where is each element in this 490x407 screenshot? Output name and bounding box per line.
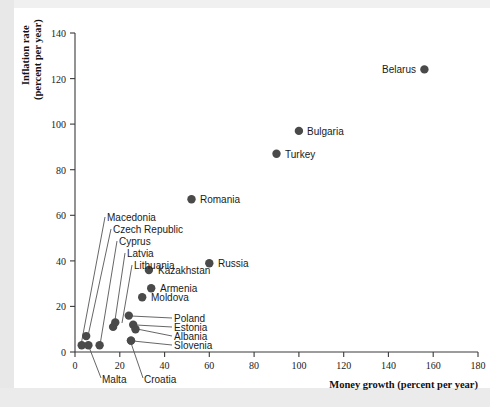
label-lithuania: Lithuania bbox=[134, 260, 175, 271]
label-turkey: Turkey bbox=[285, 149, 315, 160]
x-tick-label-180: 180 bbox=[471, 360, 486, 371]
label-romania: Romania bbox=[200, 194, 240, 205]
y-tick-label-20: 20 bbox=[56, 301, 66, 312]
point-lithuania[interactable] bbox=[111, 318, 119, 326]
label-croatia: Croatia bbox=[144, 374, 177, 385]
label-slovenia: Slovenia bbox=[174, 340, 213, 351]
label-macedonia: Macedonia bbox=[107, 212, 156, 223]
scatter-chart: 0 20 40 60 80 100 120 140 0 20 40 60 80 bbox=[0, 0, 490, 407]
y-tick-label-0: 0 bbox=[61, 347, 66, 358]
point-czech-republic[interactable] bbox=[82, 332, 90, 340]
x-tick-label-40: 40 bbox=[160, 360, 170, 371]
x-axis-title: Money growth (percent per year) bbox=[329, 379, 478, 391]
y-tick-label-140: 140 bbox=[51, 28, 66, 39]
leader-line-estonia bbox=[136, 325, 172, 327]
label-malta: Malta bbox=[102, 374, 127, 385]
y-tick-label-100: 100 bbox=[51, 119, 66, 130]
label-czech-republic: Czech Republic bbox=[113, 224, 183, 235]
label-belarus: Belarus bbox=[382, 64, 416, 75]
leader-line-macedonia bbox=[81, 217, 105, 345]
point-labels: Belarus Bulgaria Turkey Romania Russia K… bbox=[102, 64, 416, 385]
leader-line-albania bbox=[137, 329, 172, 336]
y-axis-title-line2: (percent per year) bbox=[32, 19, 44, 100]
x-tick-label-80: 80 bbox=[249, 360, 259, 371]
label-russia: Russia bbox=[218, 258, 249, 269]
data-points bbox=[78, 65, 429, 349]
x-tick-label-20: 20 bbox=[115, 360, 125, 371]
label-moldova: Moldova bbox=[151, 292, 189, 303]
leader-line-slovenia bbox=[133, 341, 172, 345]
y-tick-label-40: 40 bbox=[56, 256, 66, 267]
x-tick-label-60: 60 bbox=[204, 360, 214, 371]
x-tick-label-0: 0 bbox=[73, 360, 78, 371]
point-poland[interactable] bbox=[125, 311, 133, 319]
point-romania[interactable] bbox=[187, 195, 195, 203]
point-bulgaria[interactable] bbox=[295, 127, 303, 135]
label-cyprus: Cyprus bbox=[119, 236, 151, 247]
label-latvia: Latvia bbox=[127, 248, 154, 259]
point-cyprus[interactable] bbox=[95, 341, 103, 349]
x-tick-label-160: 160 bbox=[426, 360, 441, 371]
point-albania[interactable] bbox=[131, 325, 139, 333]
label-bulgaria: Bulgaria bbox=[307, 126, 344, 137]
point-malta[interactable] bbox=[84, 341, 92, 349]
leader-line-croatia bbox=[131, 343, 143, 378]
leader-line-poland bbox=[131, 316, 172, 318]
point-turkey[interactable] bbox=[272, 150, 280, 158]
x-axis-ticks: 0 20 40 60 80 100 120 140 160 180 bbox=[73, 352, 486, 371]
x-tick-label-120: 120 bbox=[336, 360, 351, 371]
y-tick-label-120: 120 bbox=[51, 74, 66, 85]
y-tick-label-80: 80 bbox=[56, 165, 66, 176]
point-belarus[interactable] bbox=[420, 65, 428, 73]
y-tick-label-60: 60 bbox=[56, 210, 66, 221]
x-tick-label-100: 100 bbox=[291, 360, 306, 371]
x-tick-label-140: 140 bbox=[381, 360, 396, 371]
point-moldova[interactable] bbox=[138, 293, 146, 301]
y-axis-title-line1: Inflation rate bbox=[20, 25, 31, 85]
y-axis-ticks: 0 20 40 60 80 100 120 140 bbox=[51, 28, 75, 358]
point-croatia[interactable] bbox=[127, 336, 135, 344]
figure-container: 0 20 40 60 80 100 120 140 0 20 40 60 80 bbox=[0, 0, 490, 407]
